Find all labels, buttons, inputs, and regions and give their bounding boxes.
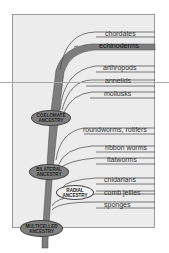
taxon-flatworms: flatworms (107, 156, 137, 164)
taxon-roundworms-rotifers: roundworms, rotifers (83, 126, 147, 134)
taxon-annelids: annelids (105, 77, 131, 85)
taxon-comb-jellies: comb jellies (104, 189, 141, 197)
taxon-arthropods: arthropods (103, 64, 136, 72)
taxon-sponges: sponges (104, 201, 130, 209)
taxon-mollusks: mollusks (104, 90, 131, 98)
node-label-line2: ANCESTRY (38, 118, 63, 123)
node-bilateral-ancestry: BILATERALANCESTRY (29, 164, 69, 180)
node-radial-ancestry: RADIALANCESTRY (56, 185, 94, 200)
taxon-chordates: chordates (105, 30, 136, 38)
node-label-line2: ANCESTRY (36, 172, 61, 177)
taxon-ribbon-worms: ribbon worms (105, 144, 147, 152)
taxon-cnidarians: cnidarians (104, 176, 136, 184)
taxon-echinoderms: echinoderms (99, 42, 139, 50)
node-label-line2: ANCESTRY (29, 229, 54, 234)
node-label-line2: ANCESTRY (62, 193, 87, 198)
node-coelomate-ancestry: COELOMATEANCESTRY (31, 110, 71, 126)
horizontal-rule (0, 82, 169, 83)
node-multicelled-ancestry: MULTICELLEDANCESTRY (20, 220, 63, 237)
